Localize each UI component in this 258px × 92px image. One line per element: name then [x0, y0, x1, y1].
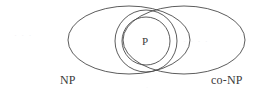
venn-diagram-figure: · · · · · · · · NP co-NP P [0, 0, 258, 92]
np-set-ellipse [68, 6, 190, 74]
np-set-label: NP [60, 74, 76, 86]
co-np-set-label: co-NP [211, 74, 243, 86]
p-set-label: P [142, 36, 148, 47]
